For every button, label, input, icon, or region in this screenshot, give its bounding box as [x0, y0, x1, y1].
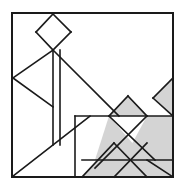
tangram-figure-canvas — [0, 0, 185, 193]
tangram-diagram — [0, 0, 185, 193]
strip-left-vertical — [53, 50, 60, 145]
